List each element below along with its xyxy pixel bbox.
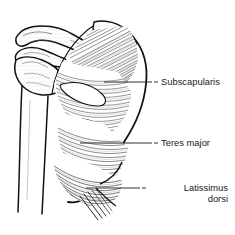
label-subscapularis: Subscapularis <box>161 76 220 87</box>
label-latissimus-line2: dorsi <box>150 193 228 204</box>
label-latissimus-line1: Latissimus <box>184 182 228 193</box>
anatomy-figure: A. Anterior Wall <box>0 0 235 235</box>
label-teres-major: Teres major <box>161 137 210 148</box>
label-latissimus-dorsi: Latissimus dorsi <box>150 182 228 204</box>
